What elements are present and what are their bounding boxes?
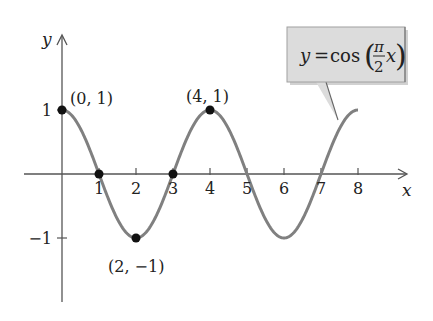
y-tick-label: 1 bbox=[42, 101, 52, 120]
x-tick-label: 1 bbox=[94, 179, 104, 198]
y-axis-label: y bbox=[41, 29, 52, 49]
x-tick-label: 8 bbox=[353, 179, 363, 198]
data-point bbox=[169, 170, 178, 179]
x-tick-label: 4 bbox=[205, 179, 215, 198]
y-tick-label: −1 bbox=[28, 229, 52, 248]
x-tick-label: 6 bbox=[279, 179, 289, 198]
data-point bbox=[132, 234, 141, 243]
cosine-graph: 123456781−1 x y (0, 1) (2, −1) (4, 1) y … bbox=[0, 0, 433, 321]
point-label-4-1: (4, 1) bbox=[186, 87, 229, 106]
callout-equals: = bbox=[314, 45, 329, 66]
callout-right-paren: ) bbox=[395, 38, 407, 73]
x-axis-label: x bbox=[402, 180, 412, 200]
callout-frac-num: π bbox=[373, 38, 385, 56]
x-tick-label: 5 bbox=[242, 179, 252, 198]
data-point bbox=[58, 106, 67, 115]
data-point bbox=[95, 170, 104, 179]
point-label-0-1: (0, 1) bbox=[70, 89, 113, 108]
x-tick-label: 3 bbox=[168, 179, 178, 198]
callout-lhs: y bbox=[299, 45, 311, 66]
callout-fn: cos bbox=[330, 45, 360, 66]
x-tick-label: 2 bbox=[131, 179, 141, 198]
point-label-2-neg1: (2, −1) bbox=[108, 257, 164, 276]
callout-frac-den: 2 bbox=[374, 58, 384, 76]
x-tick-label: 7 bbox=[316, 179, 326, 198]
data-point bbox=[206, 106, 215, 115]
function-callout: y = cos ( π 2 x ) bbox=[287, 27, 408, 120]
